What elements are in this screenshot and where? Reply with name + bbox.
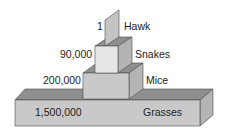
pyramid-diagram: 1 Hawk 90,000 Snakes 200,000 Mice 1,500,… <box>0 0 227 133</box>
mice-label: Mice <box>146 75 168 86</box>
snakes-count: 90,000 <box>60 49 92 60</box>
hawk-label: Hawk <box>124 21 150 32</box>
snakes-label: Snakes <box>135 49 170 60</box>
grasses-label: Grasses <box>143 107 182 118</box>
hawk-count: 1 <box>97 21 103 32</box>
mice-count: 200,000 <box>43 75 81 86</box>
grasses-count: 1,500,000 <box>35 107 82 118</box>
